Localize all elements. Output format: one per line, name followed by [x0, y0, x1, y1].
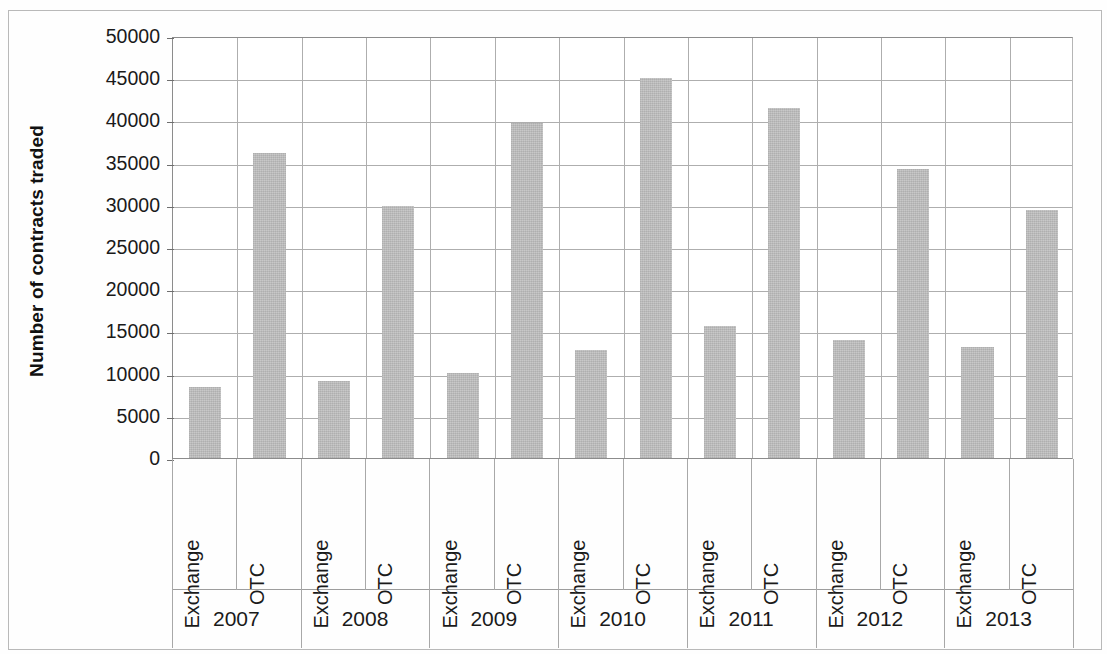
- x-axis-year-label: 2012: [857, 607, 904, 631]
- y-axis-tick-label: 20000: [68, 280, 160, 300]
- bar: [768, 108, 800, 458]
- y-axis-title: Number of contracts traded: [26, 71, 48, 431]
- vertical-gridline: [302, 38, 303, 458]
- bar: [897, 169, 929, 458]
- horizontal-gridline: [173, 418, 1072, 419]
- x-axis-year-cell: 2008: [301, 590, 430, 648]
- x-axis-year-separator: [172, 590, 173, 648]
- plot-area: [172, 37, 1073, 459]
- x-axis-category-cell: OTC: [751, 459, 815, 590]
- y-axis-tick-mark: [167, 333, 174, 334]
- vertical-gridline: [945, 38, 946, 458]
- x-axis-category-separator: [623, 459, 624, 590]
- x-axis-category-separator: [429, 459, 430, 590]
- x-axis-year-label: 2010: [599, 607, 646, 631]
- x-axis-year-label: 2009: [470, 607, 517, 631]
- y-axis-tick-mark: [167, 418, 174, 419]
- x-axis-year-label: 2011: [729, 607, 774, 631]
- horizontal-gridline: [173, 291, 1072, 292]
- x-axis-category-separator: [365, 459, 366, 590]
- x-axis-category-separator: [494, 459, 495, 590]
- bar: [318, 381, 350, 458]
- y-axis-tick-mark: [167, 122, 174, 123]
- bar: [253, 153, 285, 458]
- y-axis-tick-label: 40000: [68, 111, 160, 131]
- y-axis-tick-mark: [167, 207, 174, 208]
- vertical-gridline: [237, 38, 238, 458]
- x-axis-category-separator: [880, 459, 881, 590]
- x-axis-category-band: ExchangeOTCExchangeOTCExchangeOTCExchang…: [172, 459, 1073, 590]
- y-axis-tick-label: 30000: [68, 196, 160, 216]
- x-axis-year-label: 2007: [213, 607, 260, 631]
- horizontal-gridline: [173, 80, 1072, 81]
- x-axis-category-separator: [236, 459, 237, 590]
- y-axis-tick-mark: [167, 80, 174, 81]
- vertical-gridline: [559, 38, 560, 458]
- y-axis-tick-label: 15000: [68, 322, 160, 342]
- x-axis-year-cell: 2009: [429, 590, 558, 648]
- x-axis-category-separator: [1009, 459, 1010, 590]
- vertical-gridline: [1010, 38, 1011, 458]
- x-axis-year-separator: [816, 590, 817, 648]
- x-axis-category-separator: [751, 459, 752, 590]
- x-axis-category-separator: [816, 459, 817, 590]
- x-axis-year-separator: [1073, 590, 1074, 648]
- x-axis-category-cell: Exchange: [301, 459, 365, 590]
- x-axis-category-cell: Exchange: [816, 459, 880, 590]
- bar: [704, 326, 736, 459]
- bar: [961, 347, 993, 458]
- y-axis-tick-label: 50000: [68, 27, 160, 47]
- vertical-gridline: [752, 38, 753, 458]
- x-axis-category-separator: [687, 459, 688, 590]
- x-axis-category-cell: OTC: [623, 459, 687, 590]
- y-axis-tick-mark: [167, 376, 174, 377]
- x-axis-category-cell: Exchange: [687, 459, 751, 590]
- x-axis-year-separator: [687, 590, 688, 648]
- x-axis-category-cell: Exchange: [944, 459, 1008, 590]
- x-axis-year-separator: [429, 590, 430, 648]
- x-axis-category-separator: [1073, 459, 1074, 590]
- horizontal-gridline: [173, 249, 1072, 250]
- x-axis-category-cell: OTC: [494, 459, 558, 590]
- x-axis-year-separator: [301, 590, 302, 648]
- y-axis-tick-mark: [167, 165, 174, 166]
- x-axis-category-separator: [301, 459, 302, 590]
- x-axis-category-cell: OTC: [1009, 459, 1073, 590]
- bar: [189, 387, 221, 458]
- vertical-gridline: [366, 38, 367, 458]
- horizontal-gridline: [173, 165, 1072, 166]
- x-axis-category-separator: [172, 459, 173, 590]
- x-axis-year-separator: [944, 590, 945, 648]
- y-axis-tick-label: 25000: [68, 238, 160, 258]
- x-axis-category-cell: OTC: [236, 459, 300, 590]
- x-axis-year-cell: 2013: [944, 590, 1073, 648]
- chart-figure: Number of contracts traded 5000045000400…: [0, 0, 1107, 654]
- x-axis-year-cell: 2011: [687, 590, 816, 648]
- x-axis-category-cell: OTC: [880, 459, 944, 590]
- vertical-gridline: [688, 38, 689, 458]
- vertical-gridline: [495, 38, 496, 458]
- y-axis-tick-label: 35000: [68, 154, 160, 174]
- bar: [833, 340, 865, 458]
- x-axis-category-separator: [944, 459, 945, 590]
- x-axis-category-cell: OTC: [365, 459, 429, 590]
- bar: [640, 78, 672, 458]
- y-axis-tick-mark: [167, 291, 174, 292]
- bar: [511, 123, 543, 458]
- horizontal-gridline: [173, 333, 1072, 334]
- vertical-gridline: [624, 38, 625, 458]
- x-axis-year-cell: 2010: [558, 590, 687, 648]
- bar: [575, 350, 607, 458]
- x-axis-year-band: 2007200820092010201120122013: [172, 590, 1073, 648]
- y-axis-tick-label: 45000: [68, 69, 160, 89]
- horizontal-gridline: [173, 207, 1072, 208]
- y-axis-tick-label: 5000: [68, 407, 160, 427]
- x-axis-year-label: 2013: [985, 607, 1032, 631]
- y-axis-tick-label: 10000: [68, 365, 160, 385]
- y-axis-tick-label: 0: [68, 449, 160, 469]
- x-axis-category-separator: [558, 459, 559, 590]
- x-axis-year-cell: 2012: [816, 590, 945, 648]
- bar: [447, 373, 479, 458]
- x-axis-year-label: 2008: [342, 607, 389, 631]
- vertical-gridline: [881, 38, 882, 458]
